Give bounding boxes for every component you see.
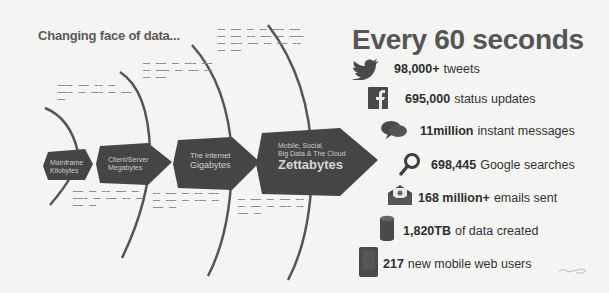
- stat-value: 695,000: [405, 92, 450, 106]
- stage-label-big: Zettabytes: [278, 158, 358, 172]
- stat-value: 1,820TB: [403, 224, 451, 238]
- stat-label: status updates: [454, 92, 535, 106]
- word-cloud-lower-1: ▬▬▬▬▬▬ ▬▬▬▬▬▬▬▬▬ ▬▬▬▬▬▬▬ ▬▬▬▬▬▬▬▬: [70, 188, 155, 209]
- stage-label-line1: Mobile, Social,: [278, 142, 358, 150]
- stat-value: 168 million+: [418, 191, 490, 205]
- stage-label-line1: Mainframe: [50, 159, 86, 167]
- stat-value: 98,000+: [394, 62, 440, 76]
- stage-label-line1: Client/Server: [108, 156, 158, 164]
- stat-label: Google searches: [480, 158, 575, 172]
- word-cloud-lower-3: ▬▬▬▬▬▬▬▬▬▬▬ ▬▬▬▬▬▬▬▬▬▬ ▬▬▬▬▬▬▬▬: [235, 196, 310, 217]
- stat-mobile-users: 217 new mobile web users: [383, 257, 532, 271]
- stat-emails-sent: 168 million+ emails sent: [418, 191, 557, 205]
- signature-mark: [558, 264, 588, 276]
- stage-zettabytes: Mobile, Social, Big Data & The Cloud Zet…: [278, 142, 358, 172]
- word-cloud-lower-2: ▬▬▬▬▬▬▬▬ ▬▬▬▬▬▬▬▬▬▬▬▬ ▬▬▬▬▬▬▬▬▬: [150, 190, 225, 211]
- stat-label: new mobile web users: [408, 257, 532, 271]
- chat-bubbles-icon: [380, 120, 408, 140]
- infographic: ▬▬ ▬▬▬▬▬▬ ▬▬▬▬▬▬ ▬▬▬▬▬ ▬▬▬▬▬▬▬▬ ▬▬▬▬▬▬▬▬…: [0, 0, 609, 293]
- stat-google-searches: 698,445 Google searches: [431, 158, 575, 172]
- stat-value: 217: [383, 257, 404, 271]
- right-panel-title: Every 60 seconds: [352, 24, 584, 56]
- stat-instant-messages: 11million instant messages: [420, 124, 575, 138]
- stage-client-server: Client/Server Megabytes: [108, 156, 158, 172]
- stat-status-updates: 695,000 status updates: [405, 92, 536, 106]
- word-cloud-client-server: ▬▬▬▬▬▬▬▬▬ ▬▬▬▬▬▬▬▬▬▬▬▬▬▬▬▬ ▬▬▬▬▬▬: [140, 60, 220, 81]
- envelope-icon: [387, 184, 413, 206]
- left-panel-title: Changing face of data...: [38, 28, 180, 43]
- stage-label-line1: The Internet: [190, 151, 250, 160]
- word-cloud-mainframe: ▬▬ ▬▬▬▬▬▬ ▬▬▬▬▬▬ ▬▬▬▬▬ ▬▬▬▬▬▬▬▬: [55, 82, 135, 103]
- stat-label: instant messages: [478, 124, 575, 138]
- stage-internet: The Internet Gigabytes: [190, 151, 250, 170]
- stat-label: tweets: [444, 62, 480, 76]
- stage-label-line2: Kilobytes: [50, 167, 86, 175]
- stat-tweets: 98,000+ tweets: [394, 62, 480, 76]
- stat-value: 11million: [420, 124, 474, 138]
- stage-mainframe: Mainframe Kilobytes: [50, 159, 86, 175]
- stat-value: 698,445: [431, 158, 476, 172]
- twitter-bird-icon: [352, 58, 380, 80]
- facebook-icon: [368, 87, 388, 109]
- database-icon: [379, 215, 395, 241]
- stage-label-line2: Gigabytes: [190, 160, 250, 170]
- stage-label-line2: Megabytes: [108, 164, 158, 172]
- stat-label: of data created: [455, 224, 538, 238]
- word-cloud-internet: ▬▬▬▬▬▬▬▬▬▬▬ ▬▬▬▬▬▬▬▬▬▬ ▬▬▬▬▬▬▬▬▬▬▬▬▬▬ ▬▬…: [215, 26, 310, 54]
- magnifier-icon: [399, 152, 421, 176]
- stat-label: emails sent: [494, 191, 557, 205]
- mobile-phone-icon: [359, 247, 378, 277]
- stat-data-created: 1,820TB of data created: [403, 224, 538, 238]
